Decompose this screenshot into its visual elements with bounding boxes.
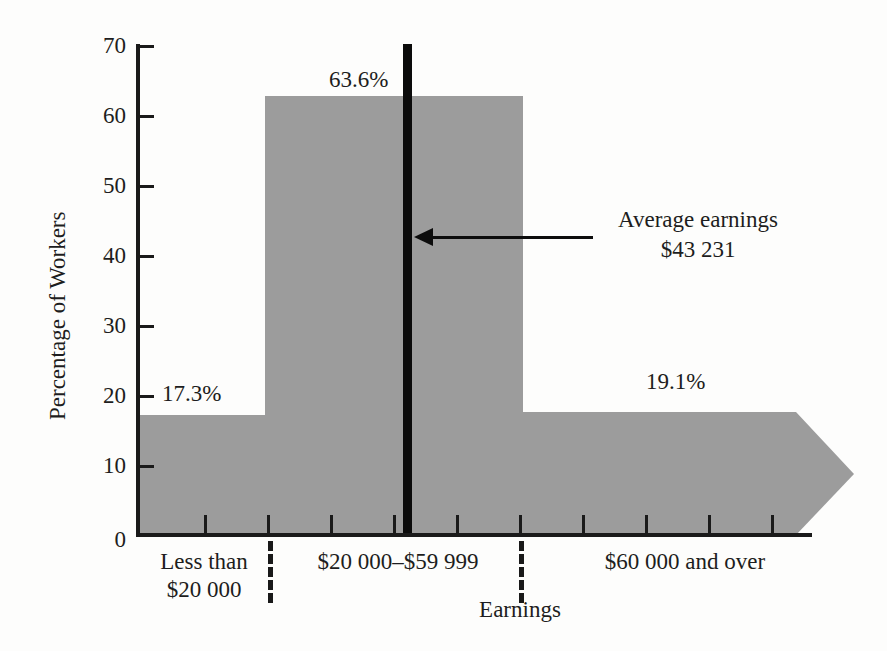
y-tick-40 — [140, 255, 154, 258]
category-label-less-than-20000: Less than $20 000 — [140, 548, 268, 604]
y-tick-label-10: 10 — [84, 454, 126, 477]
x-tick-10 — [771, 515, 774, 537]
data-label-60000-and-over: 19.1% — [646, 370, 705, 393]
x-tick-3 — [330, 515, 333, 537]
y-tick-60 — [140, 115, 154, 118]
category-divider-1 — [268, 541, 278, 603]
open-ended-arrow-icon — [796, 412, 854, 535]
x-tick-9 — [708, 515, 711, 537]
y-tick-30 — [140, 325, 154, 328]
chart-canvas: 70 60 50 40 30 20 10 0 17.3% 63.6% 19.1%… — [0, 0, 887, 651]
x-tick-8 — [645, 515, 648, 537]
y-tick-20 — [140, 395, 154, 398]
y-tick-label-40: 40 — [84, 244, 126, 267]
category-label-20000-to-59999: $20 000–$59 999 — [278, 548, 518, 576]
y-tick-label-0: 0 — [84, 528, 126, 551]
y-tick-label-70: 70 — [84, 34, 126, 57]
annotation-average-earnings: Average earnings $43 231 — [583, 205, 813, 265]
bar-60000-and-over — [520, 412, 796, 535]
bar-20000-to-59999 — [265, 96, 523, 535]
data-label-less-than-20000: 17.3% — [162, 382, 221, 405]
average-earnings-marker-line — [403, 44, 412, 537]
x-tick-6 — [519, 515, 522, 537]
y-tick-50 — [140, 185, 154, 188]
annotation-arrow-shaft — [430, 236, 593, 239]
y-tick-label-60: 60 — [84, 104, 126, 127]
y-tick-10 — [140, 465, 154, 468]
annotation-arrow-head-icon — [414, 228, 433, 246]
x-tick-1 — [204, 515, 207, 537]
category-label-60000-and-over: $60 000 and over — [540, 548, 830, 576]
y-tick-label-20: 20 — [84, 384, 126, 407]
x-tick-5 — [456, 515, 459, 537]
category-divider-2 — [519, 541, 529, 603]
data-label-20000-to-59999: 63.6% — [329, 68, 388, 91]
x-tick-4 — [393, 515, 396, 537]
y-axis-title: Percentage of Workers — [46, 212, 69, 420]
x-tick-7 — [582, 515, 585, 537]
x-axis-title: Earnings — [410, 598, 630, 621]
y-tick-label-30: 30 — [84, 314, 126, 337]
y-tick-70 — [140, 45, 154, 48]
y-tick-label-50: 50 — [84, 174, 126, 197]
x-tick-2 — [267, 515, 270, 537]
